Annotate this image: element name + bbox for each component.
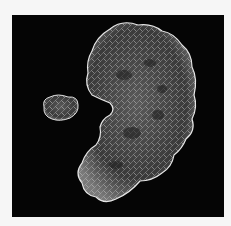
small-molecule-surface — [44, 95, 79, 120]
molecular-surface-render — [12, 15, 224, 217]
protein-surface — [78, 23, 196, 202]
render-panel — [12, 15, 224, 217]
